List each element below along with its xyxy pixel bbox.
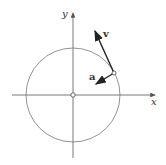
diagram-canvas [0,0,166,165]
y-axis-label: y [62,9,68,19]
origin-point [71,93,75,97]
circular-motion-diagram: y x v a [0,0,166,165]
x-axis-label: x [151,97,157,107]
acceleration-label: a [89,72,95,82]
velocity-label: v [103,29,109,39]
particle-point [112,71,116,75]
acceleration-vector [96,73,114,84]
